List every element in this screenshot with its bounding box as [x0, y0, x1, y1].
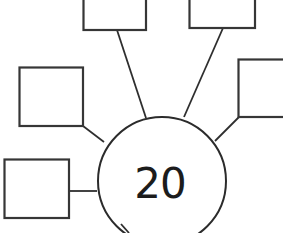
worksheet-canvas: 20 [0, 0, 283, 233]
answer-box-left[interactable] [20, 68, 84, 127]
connector-top-left [117, 30, 146, 118]
connector-top-right [184, 28, 223, 117]
answer-box-bottom-left[interactable] [5, 160, 70, 219]
connector-left [83, 126, 104, 142]
connector-right [215, 117, 239, 141]
answer-box-right[interactable] [239, 60, 284, 118]
center-value-label: 20 [134, 159, 185, 208]
answer-box-top-right[interactable] [190, 0, 256, 28]
answer-box-top-left[interactable] [84, 0, 147, 30]
spider-diagram: 20 [0, 0, 283, 233]
